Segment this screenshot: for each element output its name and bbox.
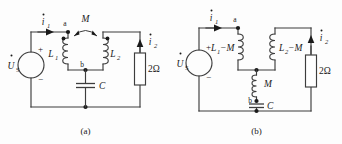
label-i2-base-b: i xyxy=(320,33,323,43)
label-node-b-b: b xyxy=(248,96,252,105)
label-source-sub-a: S xyxy=(16,66,20,73)
inductor-L2-coil-a xyxy=(103,38,108,64)
accent-dot-source-a xyxy=(11,55,13,57)
junction-node-b-b xyxy=(254,99,258,103)
label-L2-sub-a: 2 xyxy=(117,54,121,61)
mutual-arrowhead-right-a xyxy=(92,31,98,37)
label-M-b: M xyxy=(263,79,273,89)
label-C-a: C xyxy=(99,81,106,91)
caption-b: (b) xyxy=(251,126,262,136)
label-i1-sub-b: 1 xyxy=(215,18,218,25)
label-M-a: M xyxy=(81,14,91,24)
current-arrowhead-i2-b xyxy=(308,35,315,43)
label-i2-base-a: i xyxy=(149,37,152,47)
resistor-body-a xyxy=(135,53,146,85)
accent-dot-i2-b xyxy=(321,30,323,32)
junction-node-bottom-b xyxy=(254,109,258,113)
current-arrowhead-i2-a xyxy=(137,39,144,47)
accent-dot-i1-a xyxy=(43,14,45,16)
label-source-base-b: U xyxy=(177,59,185,69)
circuit-figure: i 1 i 2 U S + − a b L 1 L 2 M xyxy=(0,0,342,144)
current-arrowhead-i1-a xyxy=(46,29,54,36)
junction-node-a-b xyxy=(236,26,240,30)
resistor-body-b xyxy=(306,55,317,87)
label-L1-suffix-b: −M xyxy=(220,43,235,53)
inductor-L1-minus-M-coil-b xyxy=(238,34,243,60)
label-L1-base-b: L xyxy=(210,43,216,53)
label-source-minus-b: − xyxy=(206,72,211,82)
label-C-b: C xyxy=(267,101,274,111)
mutual-arrowhead-left-a xyxy=(74,31,80,37)
label-L2-suffix-b: −M xyxy=(288,43,303,53)
label-i1-sub-a: 1 xyxy=(47,22,50,29)
label-i2-sub-b: 2 xyxy=(325,38,329,45)
accent-dot-i2-a xyxy=(150,34,152,36)
label-L1-base-a: L xyxy=(47,49,53,59)
inductor-L2-minus-M-coil-b xyxy=(270,34,275,60)
circuit-a-svg: i 1 i 2 U S + − a b L 1 L 2 M xyxy=(0,0,171,144)
inductor-L1-coil-a xyxy=(63,38,68,64)
panel-circuit-a: i 1 i 2 U S + − a b L 1 L 2 M xyxy=(0,0,171,144)
label-L2-base-a: L xyxy=(109,49,115,59)
label-L1-sub-a: 1 xyxy=(55,54,58,61)
label-source-base-a: U xyxy=(8,61,16,71)
junction-node-a-a xyxy=(66,30,70,34)
caption-a: (a) xyxy=(81,126,91,136)
label-i1-base-b: i xyxy=(210,13,213,23)
label-i2-sub-a: 2 xyxy=(154,42,158,49)
label-source-minus-a: − xyxy=(38,74,43,84)
label-L2-base-b: L xyxy=(278,43,284,53)
label-node-a-b: a xyxy=(233,15,237,24)
label-resistor-a: 2Ω xyxy=(148,64,160,74)
current-arrowhead-i1-b xyxy=(214,25,222,32)
circuit-b-svg: i 1 i 2 U S + − a b L 1 −M L 2 −M M C xyxy=(171,0,342,144)
label-source-sub-b: S xyxy=(185,64,189,71)
panel-circuit-b: i 1 i 2 U S + − a b L 1 −M L 2 −M M C xyxy=(171,0,342,144)
label-source-plus-a: + xyxy=(38,44,43,54)
label-i1-base-a: i xyxy=(42,17,45,27)
label-node-a-a: a xyxy=(63,19,67,28)
inductor-M-coil-b xyxy=(252,75,257,97)
polarity-dot-L2-a xyxy=(106,37,110,41)
polarity-dot-L1-a xyxy=(62,37,66,41)
label-resistor-b: 2Ω xyxy=(319,66,331,76)
accent-dot-source-b xyxy=(180,53,182,55)
label-node-b-a: b xyxy=(80,60,84,69)
accent-dot-i1-b xyxy=(211,10,213,12)
